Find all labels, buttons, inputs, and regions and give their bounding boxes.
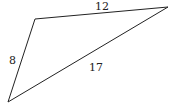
triangle: [8, 7, 168, 102]
side-label-diagonal: 17: [89, 61, 103, 74]
side-label-left: 8: [9, 54, 16, 67]
side-label-top: 12: [95, 0, 109, 13]
triangle-diagram: 12 8 17: [0, 0, 174, 103]
